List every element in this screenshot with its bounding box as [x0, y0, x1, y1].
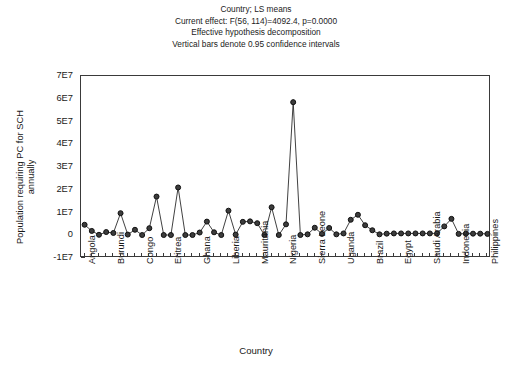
x-tick-label: Congo: [145, 237, 155, 264]
x-tick-label: Ghana: [202, 236, 212, 264]
x-tick-mark: [271, 253, 272, 257]
x-tick-mark: [400, 253, 401, 257]
x-tick-mark: [364, 253, 365, 257]
x-tick-mark: [285, 253, 286, 257]
x-tick-label: Nigeria: [288, 234, 298, 264]
x-tick-label: Philippines: [490, 219, 500, 264]
x-tick-mark: [386, 253, 387, 257]
x-tick-mark: [127, 253, 128, 257]
x-axis-title: Country: [0, 345, 512, 356]
x-tick-mark: [299, 253, 300, 257]
x-tick-mark: [393, 253, 394, 257]
x-tick-label: Mauritania: [260, 221, 270, 264]
x-tick-mark: [120, 253, 121, 257]
x-tick-mark: [227, 253, 228, 257]
x-tick-mark: [307, 253, 308, 257]
x-tick-mark: [163, 253, 164, 257]
x-tick-mark: [206, 253, 207, 257]
x-tick-mark: [458, 253, 459, 257]
x-tick-mark: [350, 253, 351, 257]
x-tick-mark: [443, 253, 444, 257]
x-tick-label: Liberia: [231, 236, 241, 264]
x-tick-mark: [357, 253, 358, 257]
x-tick-mark: [213, 253, 214, 257]
x-tick-mark: [465, 253, 466, 257]
x-tick-mark: [84, 253, 85, 257]
x-tick-mark: [105, 253, 106, 257]
x-tick-mark: [414, 253, 415, 257]
x-tick-mark: [156, 253, 157, 257]
x-tick-mark: [328, 253, 329, 257]
x-tick-label: Egypt: [403, 240, 413, 264]
x-tick-label: Eritrea: [173, 237, 183, 264]
x-tick-mark: [98, 253, 99, 257]
x-tick-mark: [422, 253, 423, 257]
x-tick-mark: [278, 253, 279, 257]
x-tick-mark: [263, 253, 264, 257]
x-tick-mark: [170, 253, 171, 257]
x-tick-mark: [335, 253, 336, 257]
x-tick-mark: [91, 253, 92, 257]
x-axis-ticks: AngolaBurundiCongoEritreaGhanaLiberiaMau…: [0, 0, 512, 368]
x-tick-label: Indonesia: [461, 224, 471, 264]
chart-canvas: Country; LS means Current effect: F(56, …: [0, 0, 512, 368]
x-tick-mark: [429, 253, 430, 257]
x-tick-mark: [371, 253, 372, 257]
x-tick-mark: [148, 253, 149, 257]
x-tick-label: Saudi Arabia: [432, 211, 442, 264]
x-tick-label: Uganda: [346, 232, 356, 264]
x-tick-mark: [242, 253, 243, 257]
x-tick-mark: [436, 253, 437, 257]
x-tick-mark: [199, 253, 200, 257]
x-tick-mark: [235, 253, 236, 257]
x-tick-mark: [249, 253, 250, 257]
x-tick-label: Burundi: [116, 232, 126, 264]
x-tick-mark: [191, 253, 192, 257]
x-tick-mark: [292, 253, 293, 257]
x-tick-mark: [184, 253, 185, 257]
x-tick-mark: [379, 253, 380, 257]
x-tick-mark: [256, 253, 257, 257]
x-tick-mark: [486, 253, 487, 257]
x-tick-mark: [407, 253, 408, 257]
x-tick-mark: [177, 253, 178, 257]
x-tick-mark: [321, 253, 322, 257]
x-tick-mark: [112, 253, 113, 257]
x-tick-mark: [141, 253, 142, 257]
x-tick-label: Sierra Leone: [317, 211, 327, 264]
x-tick-mark: [220, 253, 221, 257]
x-tick-mark: [450, 253, 451, 257]
x-tick-mark: [343, 253, 344, 257]
x-tick-mark: [479, 253, 480, 257]
x-tick-label: Angola: [87, 235, 97, 264]
x-tick-mark: [314, 253, 315, 257]
x-tick-mark: [134, 253, 135, 257]
x-tick-mark: [472, 253, 473, 257]
